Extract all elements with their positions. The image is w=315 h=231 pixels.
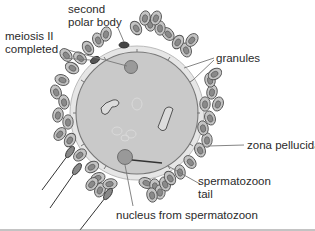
female-pronucleus xyxy=(125,61,138,74)
label-meiosis-completed: meiosis II completed xyxy=(5,30,58,56)
label-second-polar-body: second polar body xyxy=(68,3,122,29)
label-spermatozoon-tail: spermatozoon tail xyxy=(198,175,271,201)
second-polar-body xyxy=(119,42,129,48)
label-granules: granules xyxy=(216,52,260,65)
nucleus-from-spermatozoon xyxy=(118,150,133,165)
label-zona-pellucida: zona pellucida xyxy=(247,139,315,152)
label-nucleus-from-spermatozoon: nucleus from spermatozoon xyxy=(116,209,258,222)
